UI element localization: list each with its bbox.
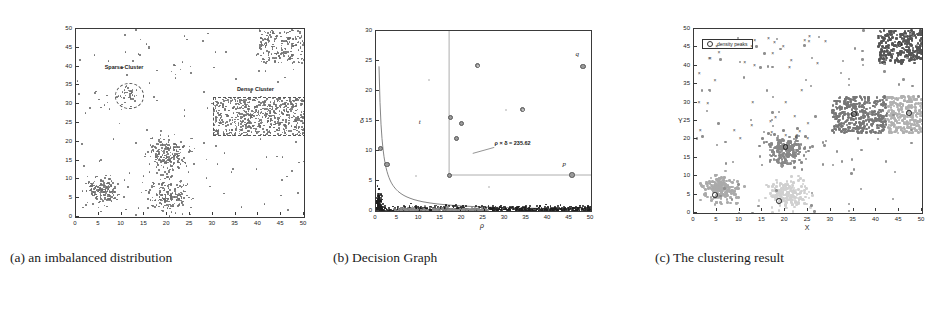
x-tick-label: 10 [735,216,742,222]
scatter-point [792,184,795,187]
scatter-point [758,199,761,202]
scatter-point [743,76,745,78]
scatter-point [139,54,141,56]
scatter-point [780,165,782,167]
scatter-point [129,172,131,174]
scatter-point [910,142,912,144]
panel-c-y-axis-label: Y [678,117,683,124]
y-tick-mark [76,197,79,198]
scatter-point [151,186,153,188]
x-tick-label: 10 [117,220,124,226]
y-tick-label: 45 [59,44,72,50]
scatter-point-x: × [718,50,722,54]
scatter-point [834,118,837,121]
x-tick-label: 40 [254,220,261,226]
x-tick-mark [189,212,190,215]
scatter-point [790,175,793,178]
scatter-point [169,215,171,217]
x-tick-mark [784,208,785,211]
scatter-point-x: × [767,36,771,40]
scatter-point-x: × [708,56,712,60]
scatter-point [181,202,183,204]
scatter-point [764,197,767,200]
scatter-point [171,211,173,213]
scatter-point [919,113,922,116]
scatter-point [161,156,163,158]
x-tick-mark [761,208,762,211]
scatter-point [94,54,96,56]
y-tick-mark [376,30,379,31]
density-peak-point [454,136,459,141]
panel-c-x-axis-label: X [805,224,810,231]
scatter-point [149,189,151,191]
scatter-point [171,165,173,167]
scatter-point [177,155,179,157]
y-tick-mark [76,178,79,179]
scatter-point [175,212,177,214]
scatter-point [801,168,804,171]
scatter-point [175,77,177,79]
density-peak-marker [776,198,782,204]
scatter-point [778,111,780,113]
scatter-point-x: × [784,100,788,104]
panel-a-plot-area [75,28,305,218]
scatter-point [207,107,209,109]
scatter-point [188,197,190,199]
scatter-point-x: × [706,101,710,105]
scatter-point [170,183,172,185]
scatter-point [224,152,226,154]
scatter-point [291,170,293,172]
scatter-point [811,57,813,59]
scatter-point [772,153,775,156]
scatter-point [284,31,286,33]
scatter-point [156,166,158,168]
scatter-point [265,42,267,44]
x-tick-label: 0 [373,214,376,220]
scatter-point [86,190,88,192]
y-tick-mark [376,90,379,91]
scatter-point [111,200,113,202]
scatter-point [295,38,297,40]
scatter-point [152,205,154,207]
scatter-point [793,160,796,163]
scatter-point [766,89,768,91]
scatter-point [202,40,204,42]
scatter-point [893,50,895,52]
x-tick-label: 35 [231,220,238,226]
scatter-point [888,52,891,55]
scatter-point [919,57,922,60]
density-peak-point [569,172,574,177]
scatter-point [854,47,856,49]
scatter-point [898,83,900,85]
legend-label-density-peaks: density peaks [717,41,748,47]
panel-b-decision-graph: 05101520253005101520253035404550 δ ρ ρ ×… [330,0,630,245]
scatter-point [276,156,278,158]
scatter-point [800,143,803,146]
scatter-point [265,32,267,34]
scatter-point [771,211,774,214]
scatter-point [701,89,703,91]
scatter-point [167,159,169,161]
scatter-point [81,143,83,145]
scatter-point-x: × [790,58,794,62]
scatter-point [162,174,164,176]
scatter-point [180,200,182,202]
y-tick-mark [76,28,79,29]
scatter-point [877,138,879,140]
scatter-point [117,183,119,185]
scatter-point [897,132,900,135]
scatter-point [848,203,850,205]
x-tick-label: 25 [804,216,811,222]
threshold-formula-label: ρ × δ = 235.62 [495,140,531,146]
x-tick-label: 50 [587,214,594,220]
scatter-point [98,207,100,209]
scatter-point [513,208,515,210]
y-tick-mark [76,84,79,85]
scatter-point [811,194,814,197]
scatter-point [102,200,104,202]
scatter-point [292,38,294,40]
scatter-point [885,57,888,60]
scatter-point [860,149,862,151]
scatter-point-x: × [806,121,810,125]
scatter-point [910,100,913,103]
